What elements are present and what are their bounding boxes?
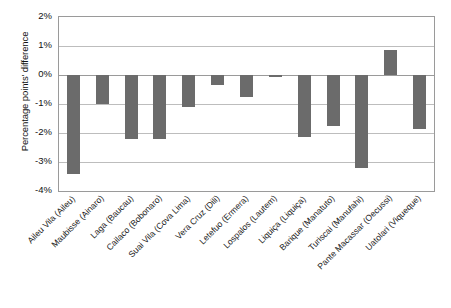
x-tick-label: Lospalos (Lautem) — [222, 194, 279, 251]
bar — [413, 75, 426, 129]
x-tick-label: Aileu Vila (Aileu) — [26, 194, 77, 245]
x-tick-label: Uatolari (Viqueque) — [364, 194, 423, 253]
bar — [298, 75, 311, 137]
plot-area — [58, 16, 435, 192]
y-axis-title: Percentage points' difference — [19, 2, 30, 182]
y-tick-label: -2% — [8, 127, 52, 137]
y-tick-label: 0% — [8, 69, 52, 79]
bar — [384, 50, 397, 75]
bar-chart: Percentage points' difference 2%1%0%-1%-… — [0, 0, 451, 308]
bar — [269, 75, 282, 77]
bar — [67, 75, 80, 174]
y-tick-label: 2% — [8, 11, 52, 21]
gridline-1 — [59, 46, 434, 47]
bar — [96, 75, 109, 104]
bar — [327, 75, 340, 126]
gridline-neg1 — [59, 104, 434, 105]
bar — [211, 75, 224, 85]
y-tick-label: -1% — [8, 98, 52, 108]
bar — [182, 75, 195, 107]
bar — [240, 75, 253, 97]
gridline-neg3 — [59, 162, 434, 163]
bar — [125, 75, 138, 139]
y-tick-label: -3% — [8, 156, 52, 166]
bar — [355, 75, 368, 168]
gridline-neg2 — [59, 133, 434, 134]
x-tick-label: Maubisse (Ainaro) — [50, 194, 106, 250]
bar — [153, 75, 166, 139]
y-tick-label: -4% — [8, 185, 52, 195]
y-tick-label: 1% — [8, 40, 52, 50]
